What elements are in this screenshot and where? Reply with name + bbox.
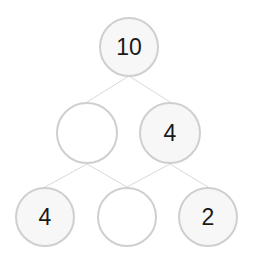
node-bottom-left: 4 — [15, 187, 75, 247]
edge-mid-right-bottom-middle — [127, 164, 170, 187]
node-mid-right: 4 — [139, 102, 201, 164]
node-mid-left[interactable] — [56, 102, 118, 164]
edge-mid-left-bottom-left — [45, 164, 87, 187]
node-top: 10 — [99, 17, 159, 77]
node-mid-right-value: 4 — [164, 120, 177, 147]
edge-mid-left-bottom-middle — [87, 164, 127, 187]
node-bottom-middle[interactable] — [97, 187, 157, 247]
edge-mid-right-bottom-right — [170, 164, 208, 187]
node-top-value: 10 — [116, 34, 142, 61]
edge-top-mid-right — [129, 76, 170, 102]
node-bottom-right-value: 2 — [202, 204, 215, 231]
node-bottom-right: 2 — [178, 187, 238, 247]
edge-top-mid-left — [87, 76, 129, 102]
node-bottom-left-value: 4 — [39, 204, 52, 231]
